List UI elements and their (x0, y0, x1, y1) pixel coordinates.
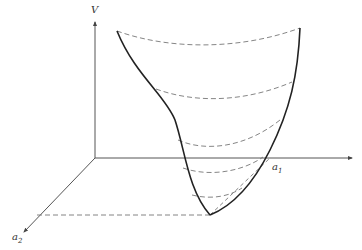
surface-left-edge (117, 31, 210, 215)
surface-right-edge (210, 28, 300, 215)
a2-axis-label: a2 (12, 232, 22, 245)
v-axis-label: V (91, 5, 98, 15)
a1-label-subscript: 1 (278, 167, 282, 175)
contour-line (156, 82, 292, 99)
contour-line (178, 120, 280, 146)
contour-line (117, 28, 300, 45)
v-label-text: V (91, 4, 98, 15)
a2-axis (24, 158, 95, 232)
a1-axis-label: a1 (272, 162, 282, 175)
contour-line (192, 188, 242, 197)
a2-label-subscript: 2 (18, 237, 22, 245)
contour-line (183, 157, 263, 172)
potential-surface-diagram (0, 0, 362, 250)
